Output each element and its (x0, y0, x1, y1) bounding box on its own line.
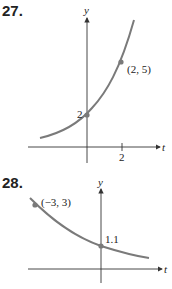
y-label-27: y (83, 4, 89, 16)
graph-27: y t (2, 5) 2 2 (28, 4, 166, 163)
graphs: y t (2, 5) 2 2 y t (−3, 3) 1.1 (0, 0, 172, 289)
point-27-b (118, 59, 123, 64)
point-label-28-b: 1.1 (105, 233, 119, 245)
point-label-28-a: (−3, 3) (41, 196, 71, 209)
point-label-27-b: (2, 5) (127, 63, 151, 76)
point-28-a (32, 202, 37, 207)
tick-label-27: 2 (119, 151, 125, 163)
y-label-28: y (97, 176, 103, 188)
t-label-27: t (162, 141, 166, 153)
point-28-b (98, 243, 103, 248)
point-27-a (84, 112, 89, 117)
t-label-28: t (164, 263, 168, 275)
graph-28: y t (−3, 3) 1.1 (28, 176, 168, 283)
point-label-27-a: 2 (77, 108, 83, 120)
